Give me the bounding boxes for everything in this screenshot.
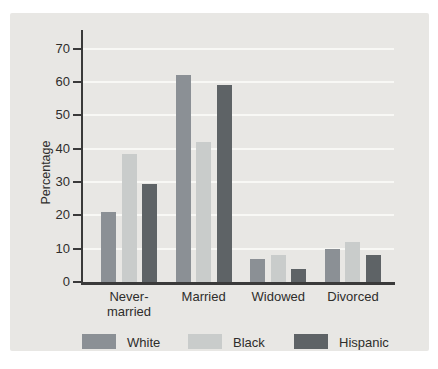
chart-panel: Percentage 010203040506070 Never- marrie… xyxy=(10,13,429,351)
ytick-label-70: 70 xyxy=(38,42,70,56)
bar-black-widowed xyxy=(271,255,286,282)
legend: WhiteBlackHispanic xyxy=(10,334,429,350)
legend-swatch-white xyxy=(82,334,116,349)
gridline-70 xyxy=(83,48,394,50)
ytick-mark-50 xyxy=(73,114,81,116)
ytick-label-30: 30 xyxy=(38,175,70,189)
ytick-mark-30 xyxy=(73,181,81,183)
legend-swatch-black xyxy=(188,334,222,349)
xtick-label-widowed: Widowed xyxy=(236,289,320,304)
screenshot-root: { "chart_data": { "type": "bar", "title"… xyxy=(0,0,438,369)
plot-area xyxy=(83,32,394,282)
xtick-label-married: Married xyxy=(162,289,246,304)
ytick-mark-20 xyxy=(73,214,81,216)
ytick-label-40: 40 xyxy=(38,142,70,156)
legend-swatch-hispanic xyxy=(294,334,328,349)
bar-black-married xyxy=(196,142,211,282)
bar-hispanic-widowed xyxy=(291,269,306,282)
ytick-mark-40 xyxy=(73,148,81,150)
bar-black-nevermarried xyxy=(122,154,137,282)
gridline-50 xyxy=(83,114,394,116)
xtick-label-nevermarried: Never- married xyxy=(87,289,171,319)
legend-label-hispanic: Hispanic xyxy=(339,335,389,350)
bar-hispanic-nevermarried xyxy=(142,184,157,282)
ytick-label-20: 20 xyxy=(38,208,70,222)
bar-white-married xyxy=(176,75,191,282)
ytick-mark-10 xyxy=(73,248,81,250)
ytick-label-0: 0 xyxy=(38,275,70,289)
ytick-mark-70 xyxy=(73,48,81,50)
bar-white-nevermarried xyxy=(101,212,116,282)
legend-label-white: White xyxy=(127,335,160,350)
ytick-label-10: 10 xyxy=(38,242,70,256)
y-axis-line xyxy=(81,30,83,284)
bar-hispanic-divorced xyxy=(366,255,381,282)
xtick-label-divorced: Divorced xyxy=(311,289,395,304)
bar-black-divorced xyxy=(345,242,360,282)
bar-hispanic-married xyxy=(217,85,232,282)
gridline-40 xyxy=(83,148,394,150)
gridline-60 xyxy=(83,81,394,83)
ytick-mark-60 xyxy=(73,81,81,83)
x-axis-line xyxy=(81,282,395,285)
ytick-mark-0 xyxy=(73,281,81,283)
ytick-label-50: 50 xyxy=(38,108,70,122)
bar-white-divorced xyxy=(325,249,340,282)
ytick-label-60: 60 xyxy=(38,75,70,89)
bar-white-widowed xyxy=(250,259,265,282)
legend-label-black: Black xyxy=(233,335,265,350)
